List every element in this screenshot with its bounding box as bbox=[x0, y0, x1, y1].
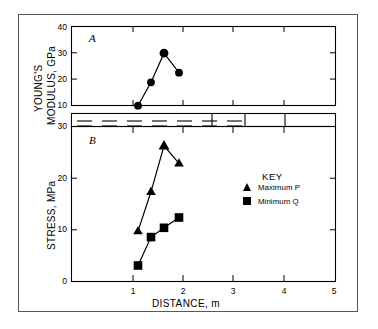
data-point bbox=[134, 102, 142, 110]
data-point bbox=[134, 261, 143, 270]
panel-b-axes bbox=[72, 127, 336, 282]
data-point bbox=[175, 69, 183, 77]
data-point bbox=[147, 78, 155, 86]
data-point bbox=[147, 233, 156, 242]
data-point bbox=[160, 49, 169, 58]
plot-drawing-layer bbox=[0, 0, 378, 329]
data-point bbox=[133, 226, 143, 234]
lithology-band bbox=[72, 114, 336, 127]
data-point bbox=[146, 187, 156, 195]
panel-a-series-youngs-modulus bbox=[134, 49, 183, 110]
figure-root: YOUNG'S MODULUS, GPa 40 30 20 10 A STRES… bbox=[0, 0, 378, 329]
panel-a-axes bbox=[72, 27, 336, 106]
data-point bbox=[160, 224, 169, 233]
data-point bbox=[175, 213, 184, 222]
data-point bbox=[159, 140, 170, 149]
